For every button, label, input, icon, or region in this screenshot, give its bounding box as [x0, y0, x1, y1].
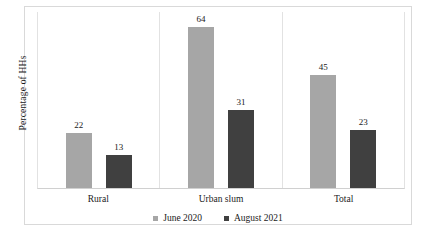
bar-rect-urban-slum-june-2020 — [188, 27, 214, 188]
bar-value-label: 22 — [74, 120, 83, 131]
category-panel-rural: 22 13 — [38, 12, 159, 188]
bar-rect-rural-august-2021 — [106, 155, 132, 188]
bar-chart-figure: Percentage of HHs 22 13 64 31 — [0, 0, 435, 235]
bar-value-label: 23 — [359, 117, 368, 128]
bar-rect-total-august-2021 — [350, 130, 376, 188]
plot-area: 22 13 64 31 45 23 — [37, 12, 405, 189]
bar-group-urban-slum-august-2021: 31 — [228, 12, 254, 188]
legend-item-june-2020: June 2020 — [153, 212, 202, 224]
legend-swatch-icon — [153, 216, 158, 221]
x-axis-label-urban-slum: Urban slum — [160, 191, 283, 209]
legend-label: June 2020 — [163, 212, 202, 224]
bar-group-urban-slum-june-2020: 64 — [188, 12, 214, 188]
x-axis-label-total: Total — [282, 191, 405, 209]
legend-swatch-icon — [224, 216, 229, 221]
chart-legend: June 2020 August 2021 — [24, 210, 412, 226]
x-axis-category-labels: Rural Urban slum Total — [37, 191, 405, 209]
bar-rect-urban-slum-august-2021 — [228, 110, 254, 188]
category-panel-total: 45 23 — [282, 12, 404, 188]
bar-value-label: 64 — [196, 14, 205, 25]
x-axis-label-rural: Rural — [37, 191, 160, 209]
bar-value-label: 45 — [319, 62, 328, 73]
bar-rect-rural-june-2020 — [66, 133, 92, 188]
bar-value-label: 31 — [236, 97, 245, 108]
bar-group-rural-august-2021: 13 — [106, 12, 132, 188]
legend-item-august-2021: August 2021 — [224, 212, 283, 224]
legend-label: August 2021 — [234, 212, 283, 224]
bar-rect-total-june-2020 — [310, 75, 336, 188]
category-panel-urban-slum: 64 31 — [159, 12, 281, 188]
y-axis-title: Percentage of HHs — [18, 33, 28, 153]
bar-group-total-august-2021: 23 — [350, 12, 376, 188]
bar-group-rural-june-2020: 22 — [66, 12, 92, 188]
bar-group-total-june-2020: 45 — [310, 12, 336, 188]
bar-value-label: 13 — [114, 142, 123, 153]
